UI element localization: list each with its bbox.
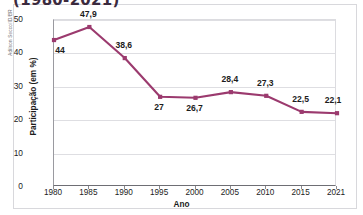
x-tick-label: 1990 xyxy=(115,188,133,197)
x-tick-mark xyxy=(124,186,125,189)
x-tick-mark xyxy=(265,186,266,189)
x-tick-label: 2010 xyxy=(256,188,274,197)
data-label: 26,7 xyxy=(186,103,203,113)
x-tick-mark xyxy=(159,186,160,189)
y-tick-label: 40 xyxy=(0,47,23,57)
x-tick-mark xyxy=(230,186,231,189)
x-tick-mark xyxy=(88,186,89,189)
chart-figure: (1980-2021) Adilson Secco/ID/BR Particip… xyxy=(0,0,363,215)
data-label: 47,9 xyxy=(80,9,97,19)
y-tick-label: 50 xyxy=(0,14,23,24)
x-tick-label: 1985 xyxy=(79,188,97,197)
x-tick-mark xyxy=(301,186,302,189)
data-label: 38,6 xyxy=(115,40,132,50)
x-axis-title: Ano xyxy=(0,200,363,209)
y-tick-label: 0 xyxy=(0,181,23,191)
data-label: 27 xyxy=(154,102,164,112)
data-label: 44 xyxy=(55,45,65,55)
x-tick-label: 2005 xyxy=(221,188,239,197)
x-tick-mark xyxy=(53,186,54,189)
x-tick-label: 1980 xyxy=(44,188,62,197)
x-tick-label: 2000 xyxy=(185,188,203,197)
y-tick-label: 20 xyxy=(0,114,23,124)
y-tick-label: 10 xyxy=(0,148,23,158)
y-axis-ticks: 01020304050 xyxy=(0,0,363,215)
x-tick-label: 2015 xyxy=(292,188,310,197)
y-tick-label: 30 xyxy=(0,81,23,91)
data-label: 28,4 xyxy=(222,74,239,84)
x-tick-mark xyxy=(336,186,337,189)
x-tick-label: 1995 xyxy=(150,188,168,197)
x-tick-mark xyxy=(195,186,196,189)
data-label: 22,5 xyxy=(292,94,309,104)
x-tick-label: 2021 xyxy=(327,188,345,197)
data-label: 22,1 xyxy=(325,95,342,105)
data-label: 27,3 xyxy=(257,78,274,88)
